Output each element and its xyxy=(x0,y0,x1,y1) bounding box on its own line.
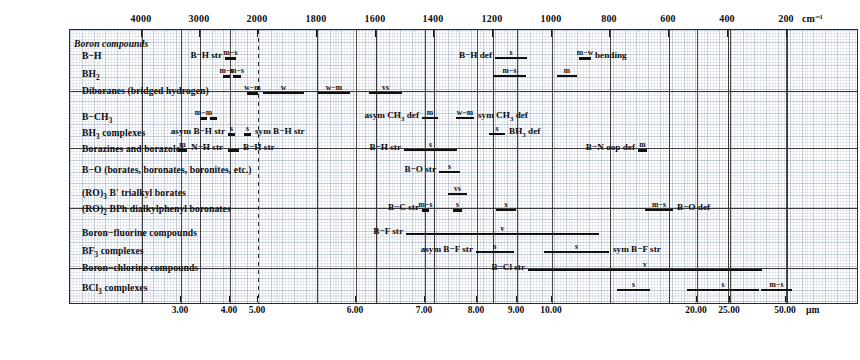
tick-bottom-4.00 xyxy=(229,296,230,302)
band-intensity-label: m−s xyxy=(769,280,783,289)
row-label-ro2bph: (RO)2 BPh dialkylphenyl boronates xyxy=(82,203,231,217)
band-intensity-label: s xyxy=(632,280,635,289)
tick-bottom-50.00 xyxy=(785,296,786,302)
band-annotation: asym B−F str xyxy=(421,244,473,254)
band-intensity-label: m−s xyxy=(230,66,244,75)
tick-bottom-3.00 xyxy=(180,296,181,302)
band-bar xyxy=(493,75,526,77)
vgridline-800 xyxy=(610,30,611,303)
band-bar xyxy=(247,92,258,95)
row-label-b-ch3: B−CH3 xyxy=(82,111,112,125)
tick-top-200 xyxy=(786,29,787,37)
band-annotation: asym B−H str xyxy=(171,126,225,136)
tick-top-1600 xyxy=(375,29,376,37)
band-intensity-label: m xyxy=(427,108,434,117)
vgridline-1600 xyxy=(376,30,377,303)
tick-label-bottom-10.00: 10.00 xyxy=(540,305,561,315)
band-bar xyxy=(228,133,235,136)
tick-label-bottom-20.00: 20.00 xyxy=(685,305,706,315)
band-bar xyxy=(210,117,217,120)
band-intensity-label: m xyxy=(639,140,646,149)
row-label-b-o: B−O (borates, boronates, boronites, etc.… xyxy=(82,164,252,175)
band-bar xyxy=(406,233,599,235)
tick-label-top-600: 600 xyxy=(660,13,676,24)
tick-label-top-4000: 4000 xyxy=(131,13,152,24)
row-label-boron-compounds: Boron compounds xyxy=(74,38,148,49)
band-intensity-label: m−s xyxy=(418,200,432,209)
band-intensity-label: s xyxy=(509,48,512,57)
band-annotation: B−H def xyxy=(459,50,492,60)
band-annotation: sym CH3 def xyxy=(478,110,528,122)
axis-bottom-unit-label: µm xyxy=(806,305,819,315)
band-bar xyxy=(318,92,350,94)
row-label-bcl3: BCl3 complexes xyxy=(82,282,148,296)
band-intensity-label: m−s xyxy=(652,200,666,209)
band-annotation: B−O str xyxy=(404,164,436,174)
tick-label-bottom-6.00: 6.00 xyxy=(347,305,364,315)
band-bar xyxy=(687,289,759,291)
band-intensity-label: v xyxy=(501,224,505,233)
tick-top-4000 xyxy=(141,29,142,37)
tick-label-bottom-50.00: 50.00 xyxy=(774,305,795,315)
tick-label-bottom-9.00: 9.00 xyxy=(508,305,525,315)
band-bar xyxy=(439,171,460,173)
band-annotation: B−H str xyxy=(190,50,222,60)
band-intensity-label: m xyxy=(564,66,571,75)
tick-top-1800 xyxy=(316,29,317,37)
vgridline-400 xyxy=(728,30,729,303)
band-bar xyxy=(476,251,514,253)
correlation-chart: cm⁻¹ µm m−sB−H strsB−H defm−wbendingm−sm… xyxy=(0,0,860,360)
axis-top-unit-label: cm⁻¹ xyxy=(802,13,823,24)
tick-top-1000 xyxy=(551,29,552,37)
tick-bottom-5.00 xyxy=(257,296,258,302)
tick-bottom-7.00 xyxy=(424,296,425,302)
row-label-b-f: Boron−fluorine compounds xyxy=(82,227,197,238)
tick-label-top-1000: 1000 xyxy=(541,13,562,24)
vgridline-micron xyxy=(697,30,698,303)
band-intensity-label: m−s xyxy=(223,48,237,57)
band-annotation: bending xyxy=(595,50,627,60)
band-annotation: sym B−F str xyxy=(613,244,661,254)
tick-label-bottom-3.00: 3.00 xyxy=(172,305,189,315)
tick-bottom-8.00 xyxy=(476,296,477,302)
vgridline-micron xyxy=(356,30,357,303)
tick-top-400 xyxy=(727,29,728,37)
band-bar xyxy=(228,149,239,152)
tick-bottom-10.00 xyxy=(551,296,552,302)
tick-top-3000 xyxy=(199,29,200,37)
band-annotation: B−C str xyxy=(388,202,419,212)
band-bar xyxy=(456,117,474,119)
band-annotation: BH3 def xyxy=(509,126,540,138)
vgridline-micron xyxy=(552,30,553,303)
row-label-bf3-complexes: BF3 complexes xyxy=(82,245,144,259)
band-bar xyxy=(225,57,236,60)
row-label-borazines: Borazines and borazoles xyxy=(82,143,184,154)
row-label-ro3b: (RO)3 B′ trialkyl borates xyxy=(82,187,186,201)
band-annotation: sym B−H str xyxy=(255,126,305,136)
band-annotation: B−F str xyxy=(373,226,403,236)
band-annotation: B−O def xyxy=(677,202,710,212)
row-label-b-h: B−H xyxy=(82,50,102,61)
band-bar xyxy=(761,289,792,291)
band-annotation: N−H str xyxy=(191,142,223,152)
tick-label-top-1800: 1800 xyxy=(306,13,327,24)
band-bar xyxy=(244,133,251,136)
tick-label-top-400: 400 xyxy=(719,13,735,24)
tick-bottom-9.00 xyxy=(516,296,517,302)
band-intensity-label: s xyxy=(495,124,498,133)
band-bar xyxy=(496,209,516,211)
tick-label-bottom-7.00: 7.00 xyxy=(416,305,433,315)
tick-top-1400 xyxy=(433,29,434,37)
tick-label-top-1200: 1200 xyxy=(482,13,503,24)
tick-label-bottom-25.00: 25.00 xyxy=(718,305,739,315)
band-intensity-label: s xyxy=(448,162,451,171)
band-intensity-label: m−m xyxy=(195,108,213,117)
band-bar xyxy=(495,57,527,59)
tick-label-top-1400: 1400 xyxy=(423,13,444,24)
band-bar xyxy=(579,57,591,60)
band-bar xyxy=(422,209,429,212)
band-intensity-label: vs xyxy=(454,184,461,193)
tick-bottom-6.00 xyxy=(355,296,356,302)
band-bar xyxy=(448,193,467,195)
band-annotation: B−H str xyxy=(369,142,401,152)
